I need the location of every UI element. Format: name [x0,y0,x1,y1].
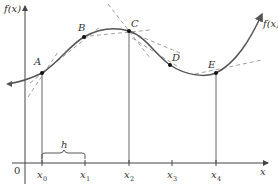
x-axis-label: x [260,166,266,177]
svg-text:2: 2 [130,175,134,183]
tick-x3: x 3 [167,169,177,183]
point-c [127,29,131,33]
tick-x0: x 0 [37,169,47,183]
origin-label: 0 [14,165,20,176]
interval-brace [42,150,85,159]
point-b [82,35,86,39]
tangent-lines [28,4,262,97]
curve-label: f(x) [262,18,278,29]
tick-x2: x 2 [124,169,134,183]
tangent-e [195,60,262,74]
tick-x4: x 4 [211,169,221,183]
chord-ab [30,27,100,83]
y-axis-label: f(x) [3,3,21,14]
label-a: A [33,56,41,67]
label-d: D [171,52,180,63]
tick-x1: x 1 [80,169,90,183]
svg-text:3: 3 [173,175,177,183]
function-diagram: A B C D E f(x) x 0 f(x) h x 0 x 1 x 2 x … [0,0,278,192]
point-e [214,71,218,75]
interval-label: h [61,139,67,150]
curve-left-arrow-icon [6,81,12,87]
label-b: B [77,22,85,33]
point-a [40,71,44,75]
svg-text:1: 1 [86,175,90,183]
svg-text:4: 4 [217,175,221,183]
label-c: C [131,18,139,29]
point-d [168,63,172,67]
svg-text:0: 0 [43,175,47,183]
label-e: E [207,59,216,70]
